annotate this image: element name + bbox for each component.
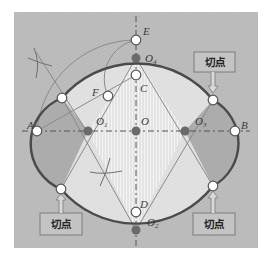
point-E [131, 35, 141, 45]
svg-text:切点: 切点 [204, 218, 225, 230]
label-E: E [142, 25, 150, 37]
point-C [131, 70, 141, 80]
tangent-point-top-left [57, 93, 67, 103]
label-O: O [141, 115, 149, 127]
point-B [230, 126, 240, 136]
svg-text:切点: 切点 [205, 56, 226, 68]
center-O [132, 127, 141, 136]
svg-text:切点: 切点 [51, 218, 72, 230]
ellipse-four-center-diagram: A B C D E F O O1 O3 O4 O2 切点 切点 切点 [0, 0, 270, 262]
tangent-point-bottom-left [56, 184, 66, 194]
center-O3 [181, 127, 190, 136]
label-C: C [140, 82, 148, 94]
tangent-point-top-right [208, 95, 218, 105]
label-D: D [139, 198, 148, 210]
point-F [103, 91, 113, 101]
center-O4 [132, 54, 141, 63]
label-F: F [91, 86, 99, 98]
center-O1 [84, 127, 93, 136]
tangent-point-bottom-right [208, 181, 218, 191]
label-A: A [26, 119, 34, 131]
label-B: B [241, 119, 248, 131]
center-O2 [132, 226, 141, 235]
